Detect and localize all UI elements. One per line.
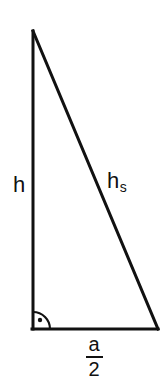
hypotenuse-line	[33, 31, 158, 329]
base-length-label: a 2	[83, 334, 105, 379]
slant-height-label: hs	[107, 170, 127, 194]
base-fraction-denominator: 2	[83, 359, 105, 379]
slant-height-subscript: s	[120, 179, 127, 195]
slant-height-base: h	[107, 168, 119, 193]
base-fraction-numerator: a	[83, 334, 105, 355]
height-label: h	[13, 174, 25, 196]
right-angle-dot-icon	[38, 318, 42, 322]
geometry-figure: h hs a 2	[0, 0, 168, 379]
